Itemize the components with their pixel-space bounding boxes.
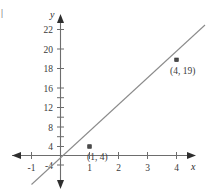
y-tick-label-22: 22: [44, 25, 54, 35]
y-tick-label-16: 16: [44, 84, 54, 94]
y-axis-bottom-arrowhead: [57, 180, 64, 189]
x-axis-right-arrowhead: [187, 152, 196, 159]
figure-corner-mark: |: [1, 7, 3, 18]
y-tick-label-20: 20: [44, 45, 54, 55]
x-tick-label-2: 2: [116, 163, 121, 173]
point-annotations: (1, 4) (4, 19): [87, 66, 195, 163]
y-axis-tick-labels: 22 20 18 16 12 8 4 -4: [44, 25, 54, 171]
annotation-point-4-19: (4, 19): [170, 66, 195, 77]
y-tick-label-18: 18: [44, 64, 54, 74]
y-axis-top-arrowhead: [57, 14, 64, 23]
x-tick-label--1: -1: [28, 163, 36, 173]
annotation-point-1-4: (1, 4): [87, 152, 108, 163]
y-tick-label-8: 8: [48, 123, 53, 133]
x-tick-label-1: 1: [87, 163, 92, 173]
x-tick-label-3: 3: [145, 163, 150, 173]
y-axis-label: y: [49, 9, 55, 20]
y-tick-label-4: 4: [48, 142, 53, 152]
data-point-1-4: [88, 145, 92, 149]
data-point-4-19: [175, 58, 179, 62]
coordinate-plane-figure: | x -1 1 2 3 4 y: [0, 0, 207, 196]
x-axis-label: x: [190, 161, 196, 172]
x-tick-label-4: 4: [174, 163, 179, 173]
x-axis-left-arrowhead: [12, 152, 21, 159]
y-tick-label-12: 12: [44, 103, 54, 113]
data-points: [88, 58, 179, 148]
